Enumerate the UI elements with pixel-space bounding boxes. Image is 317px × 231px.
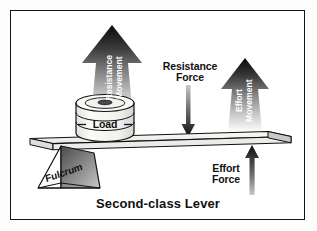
resistance-movement-label: Resistance Movement xyxy=(105,47,124,109)
effort-movement-label: Effort Movement xyxy=(235,74,254,128)
diagram-title: Second-class Lever xyxy=(58,197,258,211)
load-label: Load xyxy=(85,119,125,130)
lever-diagram-page: Resistance Movement Effort Movement Resi… xyxy=(0,0,317,231)
effort-force-label: Effort Force xyxy=(200,163,252,186)
resistance-force-arrow xyxy=(182,85,196,137)
resistance-force-label: Resistance Force xyxy=(157,61,223,84)
